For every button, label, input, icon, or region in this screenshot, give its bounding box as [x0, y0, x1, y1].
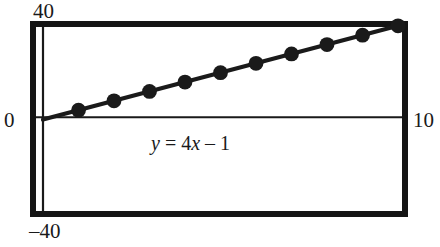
data-point	[391, 18, 406, 33]
graph-figure: 40 –40 0 10 y = 4x – 1	[0, 0, 440, 247]
equation-xvar: x	[191, 132, 200, 154]
equation-intercept: 1	[220, 132, 230, 154]
equation-annotation: y = 4x – 1	[151, 133, 230, 153]
data-point	[71, 103, 86, 118]
plot-canvas	[30, 21, 408, 217]
data-point	[107, 93, 122, 108]
data-point	[142, 84, 157, 99]
data-point	[213, 65, 228, 80]
equation-equals: =	[165, 132, 176, 154]
x-axis-max-label: 10	[413, 110, 434, 131]
y-axis-max-label: 40	[33, 1, 54, 22]
x-axis-min-label: 0	[4, 110, 15, 131]
data-point	[320, 37, 335, 52]
data-point	[249, 56, 264, 71]
equation-slope: 4	[181, 132, 191, 154]
y-axis-min-label: –40	[29, 221, 61, 242]
data-point	[284, 47, 299, 62]
data-point	[178, 75, 193, 90]
equation-lhs: y	[151, 132, 160, 154]
data-point	[355, 28, 370, 43]
equation-minus-sign: –	[205, 132, 215, 154]
